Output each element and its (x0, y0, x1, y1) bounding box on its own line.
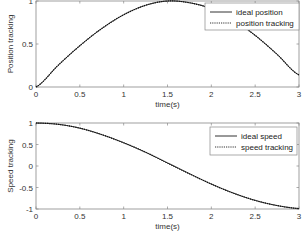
x-tick-label: 2.5 (250, 212, 262, 221)
x-axis-label: time(s) (155, 100, 180, 109)
y-tick-label: 1 (29, 0, 34, 6)
y-axis-label: Position tracking (6, 15, 15, 74)
legend-entry: position tracking (236, 19, 294, 28)
x-tick-label: 3 (297, 90, 302, 99)
x-tick-label: 1.5 (162, 212, 174, 221)
legend: ideal positionposition tracking (205, 3, 299, 30)
y-tick-label: 0 (29, 83, 34, 92)
x-tick-label: 2 (209, 90, 214, 99)
x-tick-label: 0 (34, 212, 39, 221)
x-tick-label: 1 (121, 90, 126, 99)
legend-entry: ideal speed (241, 132, 282, 141)
position-chart: 00.511.522.5300.51time(s)Position tracki… (6, 0, 302, 109)
y-tick-label: 0.5 (22, 40, 34, 49)
y-tick-label: 0.5 (22, 141, 34, 150)
y-tick-label: -1 (26, 205, 34, 214)
y-tick-label: -0.5 (19, 184, 33, 193)
legend: ideal speedspeed tracking (210, 127, 297, 155)
x-tick-label: 0 (34, 90, 39, 99)
y-axis-label: Speed tracking (6, 139, 15, 192)
x-tick-label: 2 (209, 212, 214, 221)
chart-figure: 00.511.522.5300.51time(s)Position tracki… (0, 0, 306, 242)
x-axis-label: time(s) (155, 222, 180, 231)
y-tick-label: 1 (29, 119, 34, 128)
x-tick-label: 3 (297, 212, 302, 221)
y-tick-label: 0 (29, 162, 34, 171)
x-tick-label: 0.5 (74, 90, 86, 99)
x-tick-label: 0.5 (74, 212, 86, 221)
x-tick-label: 2.5 (250, 90, 262, 99)
legend-entry: speed tracking (241, 143, 293, 152)
legend-entry: ideal position (236, 8, 283, 17)
x-tick-label: 1.5 (162, 90, 174, 99)
x-tick-label: 1 (121, 212, 126, 221)
speed-chart: 00.511.522.53-1-0.500.51time(s)Speed tra… (6, 119, 302, 231)
